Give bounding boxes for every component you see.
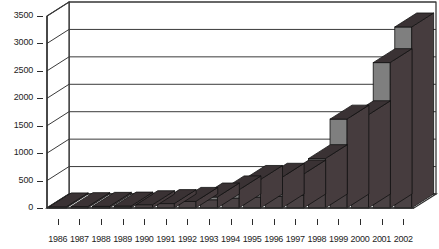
bar-side-face [347,105,369,208]
chart-plot-area [0,0,439,249]
y-axis-tick-mark [37,126,43,127]
bar-side-face [412,13,434,208]
x-axis-tick-mark [403,219,404,225]
bar-front-lower [157,204,174,208]
x-axis-tick-mark [338,219,339,225]
y-axis-tick-mark [37,43,43,44]
x-axis-tick-mark [317,219,318,225]
x-axis-tick-mark [360,219,361,225]
x-axis-tick-label: 1988 [92,234,111,244]
x-axis-tick-label: 1995 [243,234,262,244]
x-axis-tick-label: 1998 [307,234,326,244]
x-axis-tick-mark [295,219,296,225]
chart-left-wall [47,2,69,208]
x-axis-tick-label: 1989 [113,234,132,244]
y-axis-tick-label: 500 [19,176,33,185]
x-axis-tick-mark [382,219,383,225]
y-axis-labels: 0500100015002000250030003500 [0,0,43,249]
x-axis-tick-mark [58,219,59,225]
bar-chart: 0500100015002000250030003500 19861987198… [0,0,439,249]
x-axis-tick-mark [274,219,275,225]
x-axis-tick-label: 2001 [372,234,391,244]
x-axis-tick-label: 1997 [286,234,305,244]
x-axis-tick-label: 1993 [199,234,218,244]
x-axis-tick-label: 2000 [351,234,370,244]
bar-side-face [368,101,390,208]
x-axis-tick-label: 1994 [221,234,240,244]
bar-side-face [390,49,412,208]
x-axis-labels: 1986198719881989199019911992199319941995… [0,230,439,246]
x-axis-tick-mark [252,219,253,225]
y-axis-tick-label: 3500 [14,11,33,20]
y-axis-tick-label: 2000 [14,93,33,102]
y-axis-tick-label: 3000 [14,38,33,47]
y-axis-tick-label: 0 [28,203,33,212]
x-axis-tick-mark [187,219,188,225]
y-axis-tick-mark [37,98,43,99]
y-axis-tick-mark [37,16,43,17]
x-axis-tick-mark [231,219,232,225]
x-axis-tick-label: 1987 [70,234,89,244]
x-axis-tick-mark [79,219,80,225]
x-axis-tick-label: 2002 [394,234,413,244]
x-axis-tick-label: 1999 [329,234,348,244]
y-axis-tick-label: 2500 [14,66,33,75]
x-axis-tick-mark [144,219,145,225]
x-axis-tick-mark [209,219,210,225]
y-axis-tick-mark [37,208,43,209]
y-axis-tick-mark [37,71,43,72]
x-axis-tick-label: 1990 [135,234,154,244]
y-axis-tick-mark [37,181,43,182]
x-axis-tick-mark [123,219,124,225]
y-axis-tick-label: 1500 [14,121,33,130]
x-axis-tick-label: 1991 [156,234,175,244]
x-axis-tick-mark [101,219,102,225]
y-axis-tick-mark [37,153,43,154]
x-axis-tick-label: 1996 [264,234,283,244]
x-axis-tick-mark [166,219,167,225]
x-axis-tick-label: 1986 [48,234,67,244]
y-axis-tick-label: 1000 [14,148,33,157]
x-axis-tick-label: 1992 [178,234,197,244]
